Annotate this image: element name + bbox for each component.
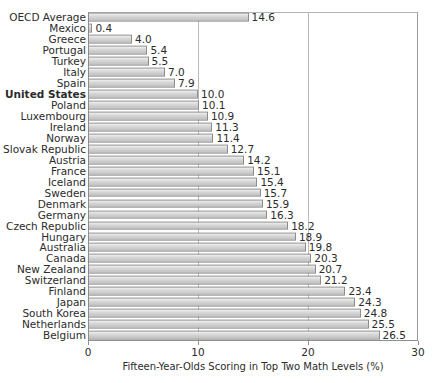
bar-value-label: 26.5 [383, 330, 406, 341]
x-tick-label: 0 [85, 346, 92, 358]
bar [88, 79, 175, 88]
bar [88, 46, 147, 55]
bar-value-label: 5.5 [152, 56, 169, 67]
bar [88, 199, 263, 208]
bar [88, 145, 228, 154]
bar [88, 57, 149, 66]
bar-row: Belgium26.5 [0, 330, 445, 341]
bar-value-label: 0.4 [95, 23, 112, 34]
x-tick-mark [88, 341, 89, 345]
x-tick-label: 10 [191, 346, 204, 358]
bar [88, 232, 296, 241]
bar [88, 155, 244, 164]
bar [88, 177, 257, 186]
bar-value-label: 7.9 [178, 78, 195, 89]
bar-value-label: 14.6 [252, 12, 275, 23]
bar [88, 221, 288, 230]
bar [88, 320, 369, 329]
bar [88, 13, 249, 22]
bar [88, 298, 355, 307]
bar [88, 188, 261, 197]
bar [88, 123, 212, 132]
bar [88, 265, 316, 274]
x-axis: Fifteen-Year-Olds Scoring in Top Two Mat… [0, 341, 445, 383]
bar [88, 112, 208, 121]
bar [88, 210, 267, 219]
bar [88, 134, 213, 143]
x-tick-mark [198, 341, 199, 345]
x-tick-mark [418, 341, 419, 345]
bar [88, 276, 321, 285]
bar [88, 35, 132, 44]
bar-chart: OECD Average14.6Mexico0.4Greece4.0Portug… [0, 0, 445, 383]
x-axis-title: Fifteen-Year-Olds Scoring in Top Two Mat… [88, 361, 418, 373]
bar [88, 309, 361, 318]
bar-value-label: 16.3 [270, 209, 293, 220]
x-tick-mark [308, 341, 309, 345]
bar [88, 287, 345, 296]
x-tick-label: 20 [301, 346, 314, 358]
bar [88, 166, 254, 175]
bar [88, 101, 199, 110]
bar [88, 24, 92, 33]
x-tick-label: 30 [411, 346, 424, 358]
bar-rows: OECD Average14.6Mexico0.4Greece4.0Portug… [0, 12, 445, 341]
bar-value-label: 4.0 [135, 34, 152, 45]
bar [88, 243, 306, 252]
bar [88, 68, 165, 77]
bar [88, 254, 311, 263]
bar-value-label: 21.2 [324, 275, 347, 286]
bar [88, 331, 380, 340]
category-label: Belgium [43, 330, 86, 341]
bar [88, 90, 198, 99]
